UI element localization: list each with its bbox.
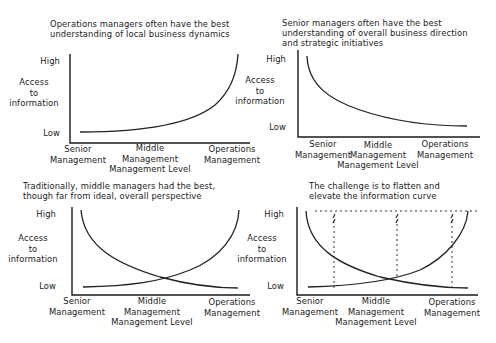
br-x-middle-2: Management	[348, 307, 404, 318]
bl-x-ops-1: Operations	[208, 297, 255, 308]
panel-bl-graphics	[72, 207, 250, 295]
br-y-label-2: to	[258, 244, 267, 255]
tl-y-label-1: Access	[19, 77, 48, 88]
bl-y-label-3: information	[8, 254, 57, 265]
tl-y-label-3: information	[9, 98, 58, 109]
tr-axes	[298, 50, 480, 137]
bl-y-low: Low	[39, 281, 56, 292]
br-axes	[297, 207, 478, 295]
bl-x-ops-2: Management	[204, 308, 260, 319]
diagram-graphics	[0, 0, 496, 343]
tr-x-middle-1: Middle	[364, 140, 392, 151]
bl-axes	[72, 207, 250, 295]
br-y-low: Low	[267, 281, 284, 292]
br-senior-curve	[306, 211, 468, 288]
tr-x-senior-2: Management	[295, 150, 351, 161]
tl-x-senior-1: Senior	[64, 144, 91, 155]
bl-x-senior-1: Senior	[63, 296, 90, 307]
tr-x-middle-2: Management	[350, 150, 406, 161]
br-middle-arrow-head-icon	[396, 214, 398, 223]
br-x-ops-1: Operations	[428, 297, 475, 308]
bl-title-line-2: though far from ideal, overall perspecti…	[23, 191, 202, 202]
tr-senior-curve	[307, 56, 467, 126]
br-x-ops-2: Management	[424, 308, 480, 319]
bl-x-middle-1: Middle	[138, 296, 166, 307]
bl-x-axis-label: Management Level	[111, 317, 193, 328]
tl-y-low: Low	[43, 128, 60, 139]
br-x-senior-2: Management	[282, 307, 338, 318]
br-x-middle-1: Middle	[362, 296, 390, 307]
tl-x-middle-2: Management	[122, 154, 178, 165]
panel-br-graphics	[297, 207, 478, 295]
tl-x-ops-1: Operations	[208, 144, 255, 155]
br-y-label-3: information	[237, 254, 286, 265]
tr-y-label-2: to	[256, 86, 265, 97]
tl-y-label-2: to	[30, 88, 39, 99]
bl-x-senior-2: Management	[49, 307, 105, 318]
tr-y-low: Low	[269, 122, 286, 133]
br-y-high: High	[264, 209, 284, 220]
bl-y-label-1: Access	[18, 233, 47, 244]
bl-x-middle-2: Management	[124, 307, 180, 318]
tr-x-ops-1: Operations	[421, 139, 468, 150]
br-x-senior-1: Senior	[296, 296, 323, 307]
tl-title-line-1: Operations managers often have the best	[50, 19, 229, 30]
tl-x-axis-label: Management Level	[109, 164, 191, 175]
bl-y-label-2: to	[29, 244, 38, 255]
br-title-line-1: The challenge is to flatten and	[309, 181, 440, 192]
br-x-axis-label: Management Level	[335, 317, 417, 328]
br-operations-curve	[308, 211, 468, 287]
tr-y-high: High	[266, 54, 286, 65]
br-senior-arrow-head-icon	[333, 214, 335, 223]
tr-y-label-3: information	[235, 96, 284, 107]
bl-y-high: High	[36, 209, 56, 220]
tl-x-senior-2: Management	[50, 155, 106, 166]
tl-operations-curve	[80, 54, 238, 132]
tr-x-ops-2: Management	[417, 150, 473, 161]
tl-x-middle-1: Middle	[136, 143, 164, 154]
br-ops-arrow-head-icon	[451, 214, 453, 223]
tr-title-line-3: and strategic initiatives	[282, 38, 383, 49]
tr-x-axis-label: Management Level	[337, 160, 419, 171]
tr-title-line-2: understanding of overall business direct…	[282, 28, 468, 39]
panel-tr-graphics	[298, 50, 480, 137]
tr-title-line-1: Senior managers often have the best	[282, 18, 442, 29]
panel-tl-graphics	[70, 54, 250, 143]
br-title-line-2: elevate the information curve	[309, 191, 437, 202]
bl-senior-curve	[81, 210, 238, 288]
bl-operations-curve	[83, 210, 239, 287]
tl-x-ops-2: Management	[204, 155, 260, 166]
br-y-label-1: Access	[247, 233, 276, 244]
bl-title-line-1: Traditionally, middle managers had the b…	[23, 181, 215, 192]
tl-axes	[70, 54, 250, 143]
tl-y-high: High	[40, 56, 60, 67]
tr-x-senior-1: Senior	[309, 139, 336, 150]
tl-title-line-2: understanding of local business dynamics	[50, 29, 230, 40]
tr-y-label-1: Access	[245, 75, 274, 86]
